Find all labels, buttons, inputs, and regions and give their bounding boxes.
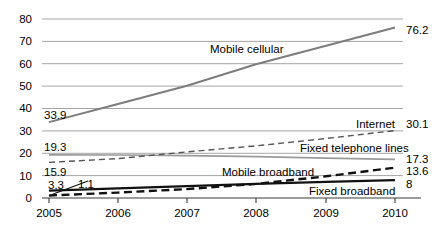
- x-axis-ticks: [49, 198, 395, 203]
- x-tick-label-2005: 2005: [29, 207, 69, 219]
- y-tick-label-80: 80: [6, 13, 32, 25]
- line-chart: 80 70 60 50 40 30 20 10 0 2005 2006 2007…: [0, 0, 438, 233]
- value-label-fixed-broadband-end: 8: [406, 178, 412, 190]
- y-tick-label-30: 30: [6, 125, 32, 137]
- series-label-fixed-broadband: Fixed broadband: [309, 185, 395, 197]
- series-label-mobile-broadband: Mobile broadband: [222, 166, 314, 178]
- y-tick-label-60: 60: [6, 58, 32, 70]
- series-line-fixed-telephone-lines: [49, 155, 395, 160]
- value-label-mobile-cellular-end: 76.2: [406, 24, 428, 36]
- value-label-fixed-telephone-lines-start: 19.3: [44, 141, 66, 153]
- value-label-fixed-telephone-lines-end: 17.3: [406, 153, 428, 165]
- value-label-internet-end: 30.1: [406, 118, 428, 130]
- series-label-mobile-cellular: Mobile cellular: [210, 43, 284, 55]
- value-label-internet-start: 15.9: [44, 166, 66, 178]
- y-tick-label-0: 0: [6, 192, 32, 204]
- series-label-fixed-telephone-lines: Fixed telephone lines: [300, 142, 409, 154]
- value-label-mobile-broadband-end: 13.6: [406, 165, 428, 177]
- x-tick-label-2008: 2008: [236, 207, 276, 219]
- x-tick-label-2010: 2010: [375, 207, 415, 219]
- value-label-fixed-broadband-start: 3.3: [48, 179, 64, 191]
- x-tick-label-2007: 2007: [167, 207, 207, 219]
- x-tick-label-2006: 2006: [98, 207, 138, 219]
- y-tick-label-10: 10: [6, 170, 32, 182]
- value-label-mobile-broadband-start: 1.1: [78, 178, 94, 190]
- x-tick-label-2009: 2009: [306, 207, 346, 219]
- series-label-internet: Internet: [356, 118, 395, 130]
- y-tick-label-70: 70: [6, 35, 32, 47]
- y-tick-label-20: 20: [6, 147, 32, 159]
- value-label-mobile-cellular-start: 33.9: [44, 109, 66, 121]
- y-tick-label-50: 50: [6, 80, 32, 92]
- y-tick-label-40: 40: [6, 102, 32, 114]
